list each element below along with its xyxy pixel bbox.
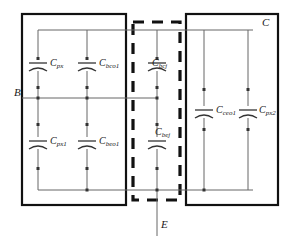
node-cbej-bot (156, 167, 159, 170)
node-rail-base-cbcj (156, 97, 159, 100)
plate-cceo1-lower (195, 115, 213, 118)
schematic-svg (0, 0, 285, 244)
cap-label-cceo1: Cceo1 (216, 105, 236, 115)
node-rail-bot-cbeo1 (86, 189, 89, 192)
plate-cbej-lower (148, 146, 166, 149)
plate-cbco1-lower (78, 68, 96, 71)
node-cpx-top (37, 57, 40, 60)
cap-label-cbeo1: Cbeo1 (99, 136, 119, 146)
node-cbcj-bot (156, 86, 159, 89)
node-cpx1-bot (37, 167, 40, 170)
node-cbco1-bot (86, 86, 89, 89)
plate-cpx-lower (29, 68, 47, 71)
node-rail-base-cbco1 (86, 97, 89, 100)
node-cpx-bot (37, 86, 40, 89)
plate-cpx2-lower (239, 115, 257, 118)
node-cceo1-bot (203, 128, 206, 131)
node-cbeo1-top (86, 123, 89, 126)
node-cbeo1-bot (86, 167, 89, 170)
terminal-label-collector: C (262, 17, 269, 28)
cap-label-cbcj: Cbcj (152, 58, 167, 68)
node-cpx2-top (247, 88, 250, 91)
terminal-label-emitter: E (161, 219, 168, 230)
circuit-diagram-canvas: Cpx Cbco1 Cpx1 Cbeo1 Cbcj Cbej Cceo1 Cpx… (0, 0, 285, 244)
plate-cbeo1-lower (78, 146, 96, 149)
cap-label-cpx2: Cpx2 (259, 105, 276, 115)
node-rail-bot-cbej (156, 189, 159, 192)
terminal-label-base: B (14, 87, 21, 98)
cap-label-cbco1: Cbco1 (99, 58, 119, 68)
node-cpx1-top (37, 123, 40, 126)
node-rail-base-cpx (37, 97, 40, 100)
node-rail-bot-cceo1 (203, 189, 206, 192)
node-cpx2-bot (247, 128, 250, 131)
cap-label-cbej: Cbej (155, 127, 170, 137)
plate-cpx1-lower (29, 146, 47, 149)
cap-label-cpx: Cpx (50, 58, 63, 68)
node-cbco1-top (86, 57, 89, 60)
node-cceo1-top (203, 88, 206, 91)
cap-label-cpx1: Cpx1 (50, 136, 67, 146)
